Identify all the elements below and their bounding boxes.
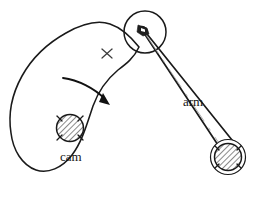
- arm-label: arm: [183, 95, 203, 108]
- cam-rotation-arrow: [63, 78, 110, 105]
- cam-mechanism-figure: cam arm: [0, 0, 259, 199]
- cam-shaft-hub: [57, 115, 84, 142]
- contact-point-cross-mark: [102, 49, 112, 58]
- arm-pivot-bearing: [211, 140, 246, 175]
- cam-label: cam: [60, 150, 82, 163]
- diagram-canvas: [0, 0, 259, 199]
- roller-pin: [137, 25, 149, 36]
- follower-arm: [140, 27, 240, 153]
